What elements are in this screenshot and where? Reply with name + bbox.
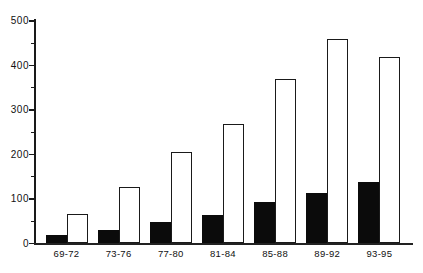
bar-filled xyxy=(98,230,119,244)
x-tick-label: 89-92 xyxy=(297,249,357,259)
y-tick-label: 300 xyxy=(0,105,29,115)
bar-filled xyxy=(306,193,327,244)
x-tick-label: 81-84 xyxy=(193,249,253,259)
bar-open xyxy=(275,79,296,244)
y-major-tick xyxy=(29,20,34,21)
y-tick-label: 400 xyxy=(0,61,29,71)
x-tick-label: 77-80 xyxy=(141,249,201,259)
y-tick-label: 200 xyxy=(0,150,29,160)
y-minor-tick xyxy=(31,43,35,44)
bar-open xyxy=(67,214,88,243)
y-major-tick xyxy=(29,243,34,244)
bar-open xyxy=(327,39,348,243)
y-major-tick xyxy=(29,198,34,199)
x-tick-label: 85-88 xyxy=(245,249,305,259)
y-major-tick xyxy=(29,65,34,66)
x-tick-label: 69-72 xyxy=(37,249,97,259)
y-tick-label: 500 xyxy=(0,16,29,26)
bar-open xyxy=(119,187,140,244)
bar-filled xyxy=(202,215,223,243)
y-tick-label: 0 xyxy=(0,239,29,249)
y-major-tick xyxy=(29,109,34,110)
y-axis-line xyxy=(34,19,36,245)
bar-filled xyxy=(150,222,171,244)
bar-chart-figure: 010020030040050069-7273-7677-8081-8485-8… xyxy=(0,0,423,273)
bar-open xyxy=(379,57,400,243)
x-tick-label: 93-95 xyxy=(349,249,409,259)
bar-open xyxy=(171,152,192,244)
y-minor-tick xyxy=(31,221,35,222)
plot-area: 010020030040050069-7273-7677-8081-8485-8… xyxy=(0,0,423,273)
y-tick-label: 100 xyxy=(0,194,29,204)
bar-filled xyxy=(46,235,67,243)
y-minor-tick xyxy=(31,176,35,177)
y-major-tick xyxy=(29,154,34,155)
bar-filled xyxy=(254,202,275,243)
y-minor-tick xyxy=(31,132,35,133)
x-tick-label: 73-76 xyxy=(89,249,149,259)
bar-filled xyxy=(358,182,379,243)
bar-open xyxy=(223,124,244,243)
y-minor-tick xyxy=(31,87,35,88)
